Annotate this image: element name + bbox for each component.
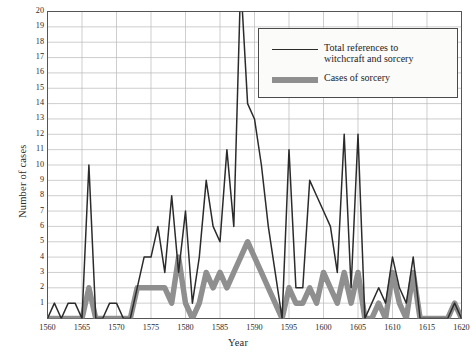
- y-tick-label: 11: [24, 144, 44, 153]
- chart-container: Number of cases Year 1234567891011121314…: [0, 0, 476, 359]
- x-axis-title: Year: [228, 337, 248, 348]
- y-tick-label: 18: [24, 37, 44, 46]
- y-tick-label: 9: [24, 175, 44, 184]
- y-tick-label: 7: [24, 206, 44, 215]
- chart-legend: Total references to witchcraft and sorce…: [258, 28, 458, 98]
- y-tick-label: 10: [24, 160, 44, 169]
- legend-entry-total: Total references to witchcraft and sorce…: [272, 43, 413, 64]
- y-tick-label: 16: [24, 67, 44, 76]
- legend-swatch-total-line: [272, 49, 318, 50]
- legend-entry-sorcery: Cases of sorcery: [272, 73, 390, 84]
- y-tick-label: 13: [24, 113, 44, 122]
- legend-label-total: Total references to witchcraft and sorce…: [324, 43, 413, 64]
- y-tick-label: 4: [24, 252, 44, 261]
- y-tick-label: 17: [24, 52, 44, 61]
- y-tick-label: 1: [24, 298, 44, 307]
- y-tick-label: 3: [24, 267, 44, 276]
- y-tick-label: 2: [24, 282, 44, 291]
- y-tick-label: 8: [24, 190, 44, 199]
- legend-label-sorcery: Cases of sorcery: [324, 73, 390, 84]
- legend-swatch-sorcery-line: [272, 77, 318, 83]
- y-tick-label: 15: [24, 83, 44, 92]
- y-tick-label: 19: [24, 21, 44, 30]
- y-tick-label: 6: [24, 221, 44, 230]
- x-tick-label: 1620: [442, 323, 476, 332]
- y-tick-label: 12: [24, 129, 44, 138]
- y-tick-label: 14: [24, 98, 44, 107]
- y-tick-label: 20: [24, 6, 44, 15]
- y-tick-label: 5: [24, 236, 44, 245]
